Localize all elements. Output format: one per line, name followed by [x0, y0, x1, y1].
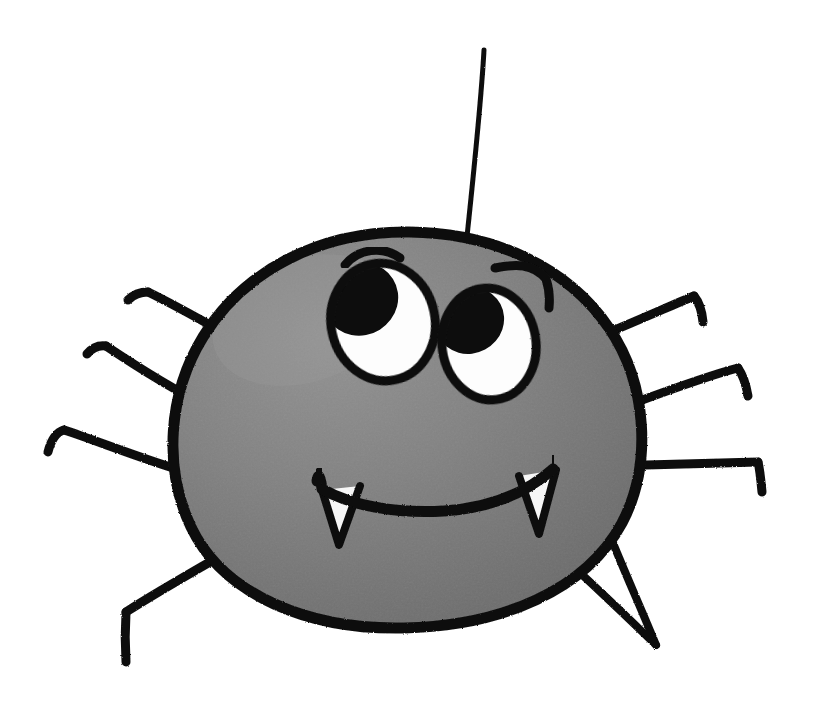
- illustration-canvas: Cartoon Spider A round gray cartoon spid…: [0, 0, 818, 711]
- mouth-right-corner: [553, 458, 554, 470]
- spider-illustration: Cartoon Spider A round gray cartoon spid…: [0, 0, 818, 711]
- mouth-left-corner: [317, 471, 321, 482]
